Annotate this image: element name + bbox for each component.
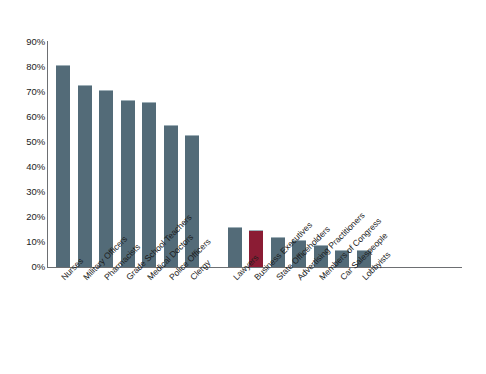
bar-fill xyxy=(56,65,70,268)
y-axis-tick-label: 60% xyxy=(3,112,45,122)
y-axis-tick-label: 70% xyxy=(3,87,45,97)
y-axis-tick-label: 30% xyxy=(3,187,45,197)
bar-chart: 90%80%70%60%50%40%30%20%10%0% NursesMili… xyxy=(0,0,486,374)
plot-area xyxy=(48,42,462,267)
bar[interactable] xyxy=(56,65,70,268)
y-axis-tick-label: 10% xyxy=(3,237,45,247)
y-axis-tick-label: 90% xyxy=(3,37,45,47)
y-axis-tick-label: 0% xyxy=(3,262,45,272)
bar-fill xyxy=(228,227,242,267)
bar[interactable] xyxy=(228,227,242,267)
bar-fill xyxy=(99,90,113,268)
bar[interactable] xyxy=(142,102,156,267)
y-axis-tick-labels: 90%80%70%60%50%40%30%20%10%0% xyxy=(0,0,45,374)
y-axis-tick-label: 80% xyxy=(3,62,45,72)
y-axis-tick-label: 50% xyxy=(3,137,45,147)
bar-fill xyxy=(142,102,156,267)
bar[interactable] xyxy=(78,85,92,268)
bar[interactable] xyxy=(99,90,113,268)
y-axis-tick-label: 40% xyxy=(3,162,45,172)
y-axis-tick-label: 20% xyxy=(3,212,45,222)
bar-fill xyxy=(78,85,92,268)
